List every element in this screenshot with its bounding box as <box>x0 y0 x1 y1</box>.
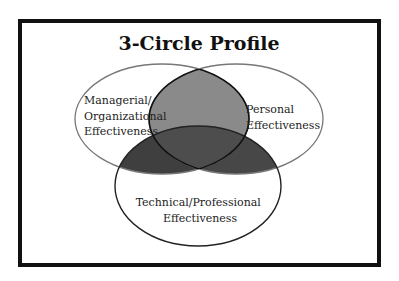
label-technical: Technical/Professional Effectiveness <box>136 196 265 225</box>
venn-diagram: 3-Circle Profile Managerial/ Organizatio… <box>0 0 399 281</box>
label-personal: Personal Effectiveness <box>246 103 320 132</box>
diagram-title: 3-Circle Profile <box>118 32 279 54</box>
